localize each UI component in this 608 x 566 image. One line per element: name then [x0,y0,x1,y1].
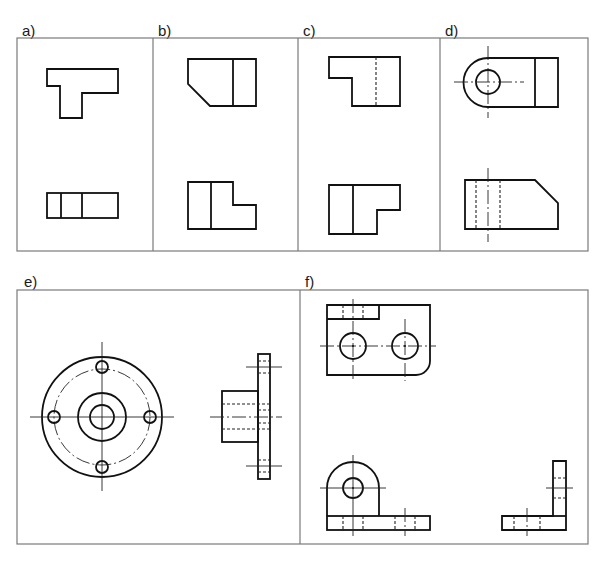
technical-drawing-sheet [0,0,608,566]
panel-c-drawing [329,57,400,234]
panel-f-center-dot-2 [404,345,406,347]
panel-d-front-view [465,180,558,229]
panel-f-center-dot-1 [352,345,354,347]
panel-c-top-view [329,57,400,106]
panel-e-side-hub [222,391,258,442]
panel-d-top-view [464,58,558,107]
top-row-frames [17,38,588,251]
panel-b-front-view [188,182,256,229]
panel-a-drawing [47,69,118,218]
panel-f-drawing [320,299,573,536]
panel-a-top-view [47,69,118,118]
panel-f-side-view [502,461,566,530]
top-row-border [17,38,588,251]
panel-e-drawing [30,342,282,491]
panel-c-front-view [329,185,400,234]
panel-b-top-view [188,59,256,106]
panel-d-drawing [454,46,558,242]
panel-b-drawing [188,59,256,229]
